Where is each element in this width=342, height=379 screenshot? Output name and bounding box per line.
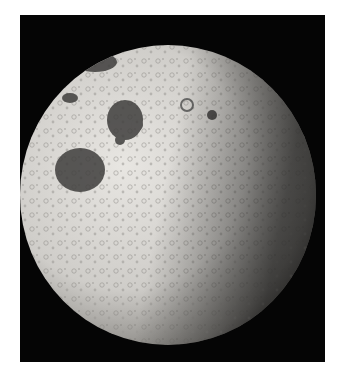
moon-photo [0,0,342,379]
moon-disk [20,40,320,350]
